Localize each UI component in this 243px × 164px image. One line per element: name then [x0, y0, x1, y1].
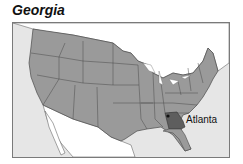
us-map: [13, 23, 229, 157]
atlanta-label: Atlanta: [186, 114, 217, 125]
map-frame: [12, 22, 230, 158]
map-title: Georgia: [12, 2, 65, 18]
atlanta-marker: [166, 114, 169, 117]
